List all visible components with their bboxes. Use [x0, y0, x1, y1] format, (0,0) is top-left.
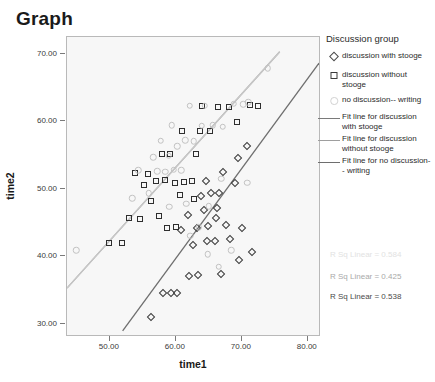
y-tick-label: 50.00 [37, 183, 57, 192]
data-point [206, 203, 213, 210]
page-title: Graph [16, 8, 73, 30]
y-tick-label: 60.00 [37, 116, 57, 125]
data-point [226, 234, 234, 242]
data-point [156, 213, 162, 219]
x-tick-label: 50.00 [99, 342, 119, 351]
data-point [159, 151, 165, 157]
legend-line-swatch [326, 111, 342, 125]
data-point [181, 179, 187, 185]
graph-panel: Graph 30.0040.0050.0060.0070.00 50.0060.… [0, 0, 435, 382]
legend-title: Discussion group [326, 33, 432, 44]
data-point [182, 137, 189, 144]
legend-item[interactable]: Fit line for discussion without stooge [326, 133, 432, 153]
data-point [169, 122, 176, 129]
data-point [157, 138, 164, 145]
data-point [213, 203, 221, 211]
data-point [166, 204, 173, 211]
legend-line-swatch [326, 155, 342, 169]
data-point [141, 182, 147, 188]
data-point [204, 222, 212, 230]
x-axis-title: time1 [179, 358, 206, 370]
data-point [210, 122, 217, 129]
legend-item[interactable]: no discussion-- writing [326, 92, 432, 108]
data-point [183, 200, 190, 207]
legend-item[interactable]: Fit line for discussion with stooge [326, 111, 432, 131]
data-point [162, 169, 169, 176]
legend-item-label: no discussion-- writing [342, 92, 421, 105]
x-tick-label: 60.00 [165, 342, 185, 351]
data-point [247, 248, 255, 256]
data-point [244, 179, 251, 186]
data-point [238, 224, 246, 232]
data-point [184, 211, 192, 219]
data-point [154, 168, 161, 175]
data-point [202, 103, 209, 110]
legend-item[interactable]: discussion with stooge [326, 48, 432, 64]
data-point [147, 313, 155, 321]
data-point [187, 233, 194, 240]
legend-item-label: discussion with stooge [342, 48, 422, 61]
data-point [146, 190, 153, 197]
data-point [215, 104, 221, 110]
legend-item-label: Fit line for no discussion-- writing [342, 155, 432, 175]
r-squared-label: R Sq Linear = 0.584 [330, 250, 401, 259]
data-point [174, 143, 181, 150]
y-tick-mark [60, 323, 65, 324]
data-point [129, 195, 136, 202]
legend-line-group: Fit line for discussion with stoogeFit l… [326, 111, 432, 175]
data-point [207, 128, 213, 134]
plot-area [66, 36, 320, 336]
legend-item[interactable]: discussion without stooge [326, 67, 432, 89]
r-squared-label: R Sq Linear = 0.425 [330, 272, 401, 281]
data-point [177, 192, 183, 198]
circle-marker-icon [330, 97, 338, 105]
data-points-layer [67, 37, 319, 335]
data-point [137, 216, 143, 222]
r-squared-label: R Sq Linear = 0.538 [330, 292, 401, 301]
x-tick-mark [175, 336, 176, 341]
data-point [189, 241, 197, 249]
data-point [219, 123, 226, 130]
data-point [197, 192, 205, 200]
data-point [119, 240, 125, 246]
data-point [230, 178, 238, 186]
y-tick-mark [60, 120, 65, 121]
y-tick-mark [60, 188, 65, 189]
data-point [185, 271, 193, 279]
diamond-marker-icon [329, 52, 339, 62]
data-point [150, 154, 157, 161]
data-point [106, 240, 112, 246]
data-point [222, 221, 230, 229]
legend-key [326, 48, 342, 64]
data-point [186, 103, 193, 110]
data-point [216, 269, 224, 277]
x-tick-mark [241, 336, 242, 341]
data-point [172, 180, 178, 186]
data-point [234, 153, 242, 161]
data-point [198, 123, 205, 130]
legend: Discussion group discussion with stooged… [326, 33, 432, 177]
data-point [204, 251, 211, 258]
x-tick-mark [109, 336, 110, 341]
legend-key [326, 92, 342, 108]
data-point [234, 256, 242, 264]
y-tick-mark [60, 53, 65, 54]
data-point [215, 188, 223, 196]
data-point [162, 177, 168, 183]
legend-marker-group: discussion with stoogediscussion without… [326, 48, 432, 108]
data-point [164, 225, 170, 231]
legend-item[interactable]: Fit line for no discussion-- writing [326, 155, 432, 175]
data-point [189, 178, 195, 184]
data-point [153, 178, 159, 184]
data-point [190, 138, 197, 145]
y-tick-label: 70.00 [37, 48, 57, 57]
data-point [171, 167, 178, 174]
data-point [218, 175, 225, 182]
legend-line-swatch [326, 133, 342, 147]
legend-item-label: discussion without stooge [342, 67, 432, 89]
data-point [215, 264, 222, 271]
data-point [212, 214, 220, 222]
data-point [126, 215, 132, 221]
data-point [196, 224, 203, 231]
data-point [193, 151, 199, 157]
